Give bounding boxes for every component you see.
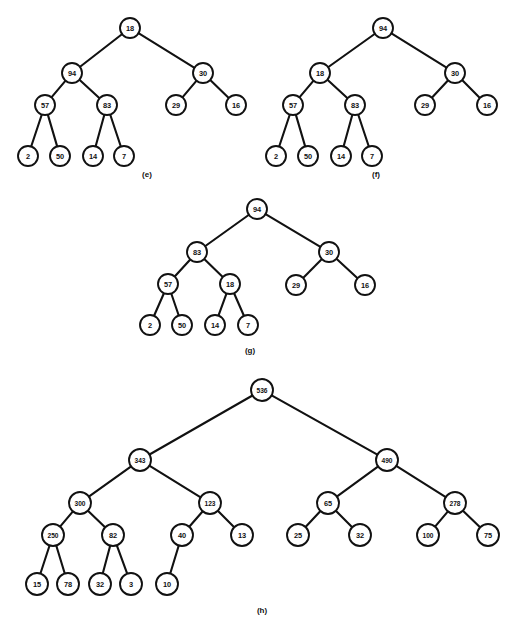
tree-panel-e: 18943057832916250147(e) <box>18 18 246 179</box>
node-label: 65 <box>324 499 332 508</box>
node-label: 29 <box>292 281 300 290</box>
node-label: 300 <box>74 500 85 507</box>
tree-edge <box>279 114 290 148</box>
binary-tree-diagram: 18943057832916250147(e)94183057832916250… <box>0 0 514 627</box>
node-label: 75 <box>484 531 492 540</box>
tree-edge <box>88 466 132 497</box>
tree-node: 7 <box>362 146 382 166</box>
tree-node: 18 <box>220 274 240 294</box>
tree-edge <box>271 395 379 455</box>
node-label: 14 <box>337 152 346 161</box>
tree-edge <box>203 258 223 277</box>
tree-node: 30 <box>193 63 213 83</box>
tree-node: 490 <box>376 449 398 471</box>
panel-caption-h: (h) <box>257 606 268 615</box>
tree-node: 94 <box>62 63 82 83</box>
tree-node: 536 <box>251 379 273 401</box>
node-label: 15 <box>33 580 41 589</box>
node-label: 94 <box>379 24 388 33</box>
tree-edge <box>327 79 349 99</box>
node-label: 30 <box>325 248 333 257</box>
nodes-group-e: 18943057832916250147 <box>18 18 246 166</box>
node-label: 7 <box>246 321 250 330</box>
tree-node: 32 <box>349 524 371 546</box>
node-label: 10 <box>163 580 171 589</box>
node-label: 536 <box>256 387 267 394</box>
node-label: 57 <box>289 101 297 110</box>
tree-node: 13 <box>231 524 253 546</box>
tree-edge <box>40 545 50 575</box>
node-label: 40 <box>178 531 186 540</box>
node-label: 14 <box>211 321 220 330</box>
tree-edge <box>170 545 179 575</box>
tree-edge <box>395 465 446 497</box>
node-label: 83 <box>103 101 111 110</box>
node-label: 32 <box>356 531 364 540</box>
tree-node: 78 <box>57 573 79 595</box>
tree-node: 10 <box>156 573 178 595</box>
tree-edge <box>31 114 42 148</box>
tree-edge <box>217 510 235 528</box>
node-label: 25 <box>294 531 302 540</box>
tree-panel-f: 94183057832916250147(f) <box>266 18 497 179</box>
tree-edge <box>95 114 104 148</box>
edges-group-h <box>40 395 481 575</box>
tree-node: 50 <box>172 315 192 335</box>
node-label: 16 <box>483 101 491 110</box>
node-label: 50 <box>178 321 186 330</box>
tree-node: 75 <box>477 524 499 546</box>
tree-node: 94 <box>373 18 393 38</box>
edges-group-g <box>154 214 359 317</box>
node-label: 29 <box>172 101 180 110</box>
tree-edge <box>110 114 121 148</box>
node-label: 57 <box>41 101 49 110</box>
tree-edge <box>209 79 229 98</box>
tree-edge <box>48 114 58 148</box>
node-label: 32 <box>96 580 104 589</box>
tree-edge <box>51 80 66 98</box>
tree-edge <box>335 510 353 528</box>
node-label: 7 <box>370 152 374 161</box>
tree-edge <box>79 79 101 99</box>
node-label: 490 <box>381 457 392 464</box>
node-label: 2 <box>148 321 152 330</box>
node-label: 50 <box>304 152 312 161</box>
tree-node: 343 <box>129 449 151 471</box>
tree-node: 7 <box>114 146 134 166</box>
tree-node: 18 <box>310 63 330 83</box>
panel-caption-e: (e) <box>142 170 152 179</box>
figure-root: 18943057832916250147(e)94183057832916250… <box>0 0 514 627</box>
node-label: 50 <box>56 152 64 161</box>
panel-caption-f: (f) <box>372 170 380 179</box>
tree-edge <box>174 259 191 278</box>
tree-edge <box>462 510 481 528</box>
node-label: 83 <box>193 248 201 257</box>
node-label: 30 <box>199 69 207 78</box>
tree-edge <box>434 511 448 528</box>
tree-node: 30 <box>445 63 465 83</box>
tree-edge <box>461 79 480 98</box>
tree-node: 2 <box>18 146 38 166</box>
node-label: 2 <box>26 152 30 161</box>
node-label: 18 <box>316 69 324 78</box>
tree-node: 2 <box>266 146 286 166</box>
node-label: 14 <box>89 152 98 161</box>
tree-edge <box>149 465 202 498</box>
node-label: 83 <box>351 101 359 110</box>
tree-node: 14 <box>205 315 225 335</box>
node-label: 3 <box>129 580 133 589</box>
tree-node: 29 <box>166 95 186 115</box>
tree-edge <box>296 114 306 148</box>
tree-edge <box>327 33 375 68</box>
tree-panel-h: 5363434903001236527825082401325321007515… <box>26 379 499 615</box>
node-label: 78 <box>64 580 72 589</box>
tree-node: 50 <box>298 146 318 166</box>
node-label: 250 <box>47 532 58 539</box>
tree-node: 83 <box>97 95 117 115</box>
nodes-group-g: 94833057182916250147 <box>140 199 375 335</box>
node-label: 57 <box>164 280 172 289</box>
tree-edge <box>56 545 65 575</box>
tree-node: 83 <box>187 242 207 262</box>
tree-node: 83 <box>345 95 365 115</box>
edges-group-f <box>279 33 481 148</box>
